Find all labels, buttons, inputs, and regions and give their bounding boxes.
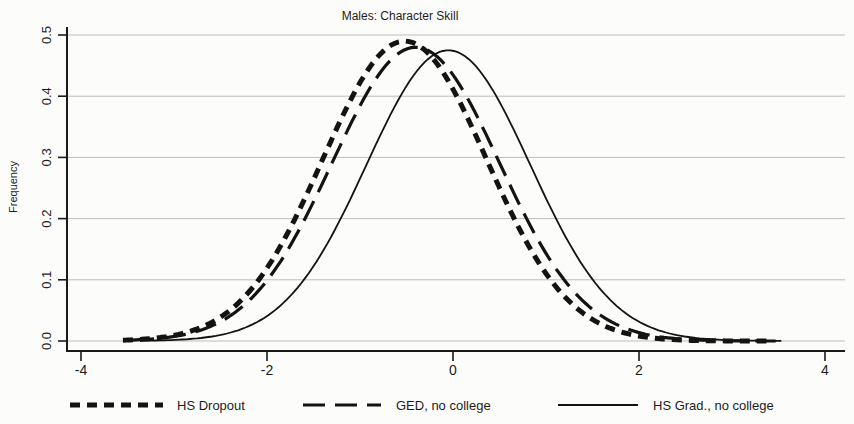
y-tick-label-0.4: 0.4 (39, 87, 54, 105)
x-tick-label-0: 0 (449, 362, 457, 378)
legend-label-hs-grad-no-college: HS Grad., no college (653, 398, 774, 413)
y-tick-label-0.5: 0.5 (39, 26, 54, 44)
y-tick-label-0.0: 0.0 (39, 332, 54, 350)
legend-label-ged-no-college: GED, no college (396, 398, 491, 413)
y-axis-label: Frequency (7, 161, 19, 213)
legend: HS DropoutGED, no collegeHS Grad., no co… (70, 398, 774, 413)
legend-label-hs-dropout: HS Dropout (177, 398, 245, 413)
x-tick-label-4: 4 (821, 362, 829, 378)
axes (67, 27, 845, 351)
density-curve-hs-dropout (123, 41, 767, 341)
scanned-figure-page: 0.00.10.20.30.40.5 -4-2024 HS DropoutGED… (0, 0, 854, 424)
y-tick-label-0.2: 0.2 (39, 210, 54, 228)
density-curve-hs-grad-no-college (141, 50, 781, 341)
axis-spines (67, 27, 845, 351)
x-axis-ticks: -4-2024 (75, 351, 829, 378)
x-tick-label--2: -2 (261, 362, 274, 378)
x-tick-label-2: 2 (635, 362, 643, 378)
density-chart: 0.00.10.20.30.40.5 -4-2024 HS DropoutGED… (0, 0, 854, 424)
y-axis-ticks: 0.00.10.20.30.40.5 (39, 26, 68, 350)
y-tick-label-0.3: 0.3 (39, 148, 54, 166)
density-curves (123, 41, 781, 341)
y-tick-label-0.1: 0.1 (39, 271, 54, 289)
chart-title: Males: Character Skill (342, 9, 459, 23)
x-tick-label--4: -4 (75, 362, 88, 378)
